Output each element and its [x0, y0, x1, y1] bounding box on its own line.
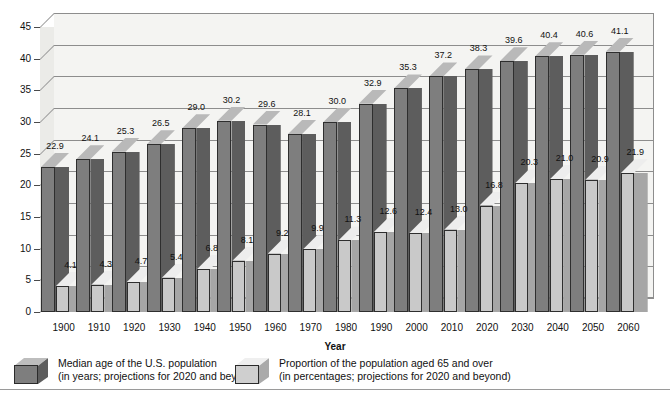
y-axis-tick — [34, 59, 40, 60]
bar-front-face — [570, 55, 584, 312]
bar-value-label-median-age: 35.3 — [394, 63, 422, 72]
bar-value-label-proportion-65plus: 12.4 — [409, 208, 437, 217]
bar-value-label-proportion-65plus: 20.3 — [515, 158, 543, 167]
bar-value-label-median-age: 39.6 — [500, 36, 528, 45]
bar-front-face — [585, 180, 598, 312]
bar-front-face — [515, 183, 528, 312]
bar-top-face — [606, 38, 634, 52]
bar-front-face — [323, 122, 337, 312]
bar-value-label-proportion-65plus: 4.3 — [92, 260, 120, 269]
bar-front-face — [56, 286, 69, 312]
y-axis-tick — [34, 312, 40, 313]
y-axis-tick-label: 30 — [7, 117, 31, 127]
bar-value-label-median-age: 40.4 — [535, 31, 563, 40]
gridline — [54, 45, 654, 46]
bar-value-label-proportion-65plus: 16.8 — [480, 181, 508, 190]
bar-front-face — [444, 230, 457, 312]
bar-top-face — [147, 130, 175, 144]
bar-proportion-65plus — [621, 159, 648, 312]
bar-front-face — [550, 179, 563, 312]
bar-top-face — [76, 145, 104, 159]
cube-front-face — [235, 365, 259, 384]
gridline — [54, 140, 654, 141]
x-axis-title: Year — [0, 341, 670, 352]
bar-value-label-proportion-65plus: 9.2 — [268, 229, 296, 238]
y-axis-tick — [34, 90, 40, 91]
bar-value-label-median-age: 41.1 — [606, 27, 634, 36]
bar-front-face — [288, 134, 302, 312]
legend-label-median-age: Median age of the U.S. population (in ye… — [58, 357, 258, 382]
bar-front-face — [409, 233, 422, 312]
bar-top-face — [621, 159, 648, 173]
legend-item-proportion-65plus: Proportion of the population aged 65 and… — [235, 355, 565, 393]
bar-top-face — [570, 41, 598, 55]
bar-value-label-median-age: 40.6 — [570, 30, 598, 39]
bar-top-face — [394, 74, 422, 88]
bar-front-face — [112, 152, 126, 312]
bar-front-face — [162, 278, 175, 312]
bar-front-face — [41, 167, 55, 312]
bar-value-label-proportion-65plus: 12.6 — [374, 207, 402, 216]
x-axis-tick-labels: 1900191019201930194019501960197019801990… — [0, 322, 670, 338]
bar-front-face — [303, 249, 316, 312]
bar-value-label-proportion-65plus: 8.1 — [233, 236, 261, 245]
bar-value-label-proportion-65plus: 13.0 — [445, 205, 473, 214]
bar-front-face — [606, 52, 620, 312]
bar-top-face — [465, 55, 493, 69]
bar-front-face — [127, 282, 140, 312]
chart-container: 051015202530354045 22.94.124.14.325.34.7… — [0, 0, 670, 393]
bar-value-label-proportion-65plus: 21.0 — [551, 154, 579, 163]
bar-front-face — [268, 254, 281, 312]
bar-front-face — [147, 144, 161, 312]
bar-top-face — [182, 114, 210, 128]
bar-value-label-proportion-65plus: 4.7 — [127, 257, 155, 266]
bar-front-face — [429, 76, 443, 312]
x-axis-tick-label: 2060 — [606, 322, 650, 334]
y-axis-tick — [34, 280, 40, 281]
bar-value-label-proportion-65plus: 21.9 — [621, 148, 649, 157]
bar-top-face — [323, 108, 351, 122]
cube-light-icon — [235, 358, 269, 384]
bar-front-face — [374, 232, 387, 312]
bar-front-face — [535, 56, 549, 312]
bar-front-face — [480, 206, 493, 312]
y-axis-tick — [34, 122, 40, 123]
bar-top-face — [112, 138, 140, 152]
legend-line-2: (in percentages; projections for 2020 an… — [279, 370, 511, 383]
bar-value-label-median-age: 25.3 — [112, 127, 140, 136]
bar-front-face — [182, 128, 196, 312]
y-axis-tick — [34, 154, 40, 155]
bar-front-face — [394, 88, 408, 312]
bar-top-face — [217, 107, 245, 121]
y-axis-tick-label: 5 — [7, 275, 31, 285]
bar-top-face — [500, 47, 528, 61]
y-axis-tick — [34, 249, 40, 250]
bar-front-face — [359, 104, 373, 312]
bar-front-face — [197, 269, 210, 312]
bar-top-face — [288, 120, 316, 134]
bar-value-label-median-age: 30.0 — [323, 97, 351, 106]
y-axis-tick-label: 10 — [7, 244, 31, 254]
gridline-depth-connector — [40, 13, 55, 28]
plot-area: 22.94.124.14.325.34.726.55.429.06.830.28… — [40, 13, 640, 312]
y-axis-tick — [34, 185, 40, 186]
legend-line-1: Proportion of the population aged 65 and… — [279, 357, 493, 369]
y-axis-tick-label: 35 — [7, 85, 31, 95]
bar-value-label-median-age: 30.2 — [217, 96, 245, 105]
cube-dark-icon — [14, 358, 48, 384]
bar-front-face — [217, 121, 231, 312]
bar-top-face — [41, 153, 69, 167]
legend-line-2: (in years; projections for 2020 and beyo… — [58, 370, 258, 383]
bar-value-label-median-age: 37.2 — [429, 51, 457, 60]
legend-label-proportion-65plus: Proportion of the population aged 65 and… — [279, 357, 511, 382]
bar-front-face — [91, 285, 104, 312]
y-axis-tick-label: 20 — [7, 180, 31, 190]
bar-value-label-proportion-65plus: 5.4 — [162, 253, 190, 262]
y-axis-tick-label: 45 — [7, 22, 31, 32]
bar-value-label-proportion-65plus: 9.9 — [304, 224, 332, 233]
y-axis-tick-label: 25 — [7, 149, 31, 159]
gridline — [54, 76, 654, 77]
bar-front-face — [232, 261, 245, 312]
bar-top-face — [253, 111, 281, 125]
bar-value-label-median-age: 29.0 — [182, 103, 210, 112]
